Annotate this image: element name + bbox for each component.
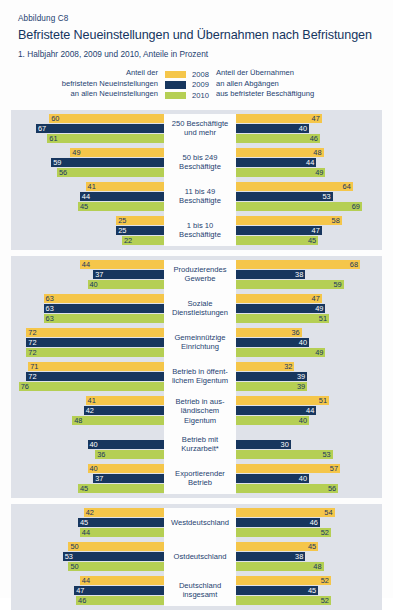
bar-2009: 40 [236, 474, 309, 483]
bar-row: 72 [11, 372, 164, 382]
bar-value: 42 [86, 508, 94, 517]
group-label-line: Kurzarbeit* [164, 445, 236, 455]
bar-row: 49 [236, 304, 382, 314]
group-label: 250 Beschäftigteund mehr [164, 119, 236, 138]
bar-value: 48 [74, 416, 82, 425]
chart-legend: Anteil der befristeten Neueinstellungen … [0, 68, 393, 101]
bar-value: 45 [308, 236, 316, 245]
bar-2009: 45 [78, 518, 164, 527]
bar-value: 44 [306, 158, 314, 167]
bar-2009: 53 [236, 192, 333, 201]
bar-row: 40 [11, 440, 164, 450]
bar-2009: 53 [63, 552, 164, 561]
legend-entry-2008: 2008 [165, 69, 209, 80]
legend-entry-2009: 2009 [165, 80, 209, 91]
bar-2009: 59 [51, 158, 164, 167]
bar-2008: 48 [236, 148, 324, 157]
right-bars: 474951 [236, 294, 382, 324]
right-bars: 574056 [236, 464, 382, 494]
bar-value: 48 [313, 148, 321, 157]
bar-value: 45 [308, 586, 316, 595]
bar-row: 39 [236, 382, 382, 392]
bar-value: 52 [321, 596, 329, 605]
bar-2010: 50 [68, 562, 164, 571]
bar-row: 56 [11, 168, 164, 178]
bar-row: 49 [11, 148, 164, 158]
left-bars: 414445 [11, 182, 164, 212]
bar-value: 39 [297, 382, 305, 391]
bar-value: 72 [28, 338, 36, 347]
right-bars: 364049 [236, 328, 382, 358]
bar-row: 39 [236, 372, 382, 382]
bar-row: 63 [11, 294, 164, 304]
bar-value: 40 [299, 124, 307, 133]
bar-2008: 52 [236, 576, 331, 585]
bar-2010: 46 [76, 596, 164, 605]
bar-value: 47 [312, 114, 320, 123]
bar-value: 49 [315, 348, 323, 357]
bar-row: 30 [236, 440, 382, 450]
bar-value: 41 [88, 396, 96, 405]
bar-value: 22 [124, 236, 132, 245]
bar-value: 44 [82, 576, 90, 585]
bar-value: 61 [49, 134, 57, 143]
chart-panel: 424544Westdeutschland544652505350Ostdeut… [11, 504, 382, 610]
group-label-line: 1 bis 10 [164, 221, 236, 231]
group-label-line: und mehr [164, 129, 236, 139]
right-bars: 474046 [236, 114, 382, 144]
bar-2009: 40 [236, 124, 309, 133]
group-label: Betrieb mitKurzarbeit* [164, 435, 236, 454]
bar-value: 45 [80, 202, 88, 211]
group-label: Westdeutschland [164, 518, 236, 528]
bar-2008: 58 [236, 216, 342, 225]
bar-row: 47 [11, 586, 164, 596]
chart-group: 443740ProduzierendesGewerbe683859 [11, 260, 382, 290]
bar-2008: 51 [236, 396, 329, 405]
left-bars: 636363 [11, 294, 164, 324]
bar-value: 40 [299, 338, 307, 347]
figure-title: Befristete Neueinstellungen und Übernahm… [18, 28, 381, 42]
group-label-line: ländischem Eigentum [164, 406, 236, 425]
bar-row: 40 [236, 416, 382, 426]
bar-value: 44 [82, 528, 90, 537]
bar-value: 37 [95, 270, 103, 279]
bar-row: 42 [11, 508, 164, 518]
bar-value: 41 [88, 182, 96, 191]
bar-value: 72 [28, 372, 36, 381]
bar-value: 49 [315, 168, 323, 177]
bar-2010: 61 [47, 134, 164, 143]
bar-value: 49 [315, 304, 323, 313]
bar-value: 52 [321, 576, 329, 585]
bar-value: 51 [319, 396, 327, 405]
bar-row: 61 [11, 134, 164, 144]
bar-2008: 45 [236, 542, 318, 551]
legend-left-line-2: befristeten Neueinstellungen [26, 79, 158, 90]
bar-value: 40 [299, 416, 307, 425]
group-label-line: Deutschland [164, 581, 236, 591]
bar-row: 51 [236, 396, 382, 406]
left-bars: 444746 [11, 576, 164, 606]
chart-group: 2525221 bis 10Beschäftigte584745 [11, 216, 382, 246]
bar-2010: 48 [236, 562, 324, 571]
left-bars: 252522 [11, 216, 164, 246]
bar-row: 46 [236, 518, 382, 528]
group-label: Ostdeutschland [164, 552, 236, 562]
bar-value: 32 [284, 362, 292, 371]
bar-row: 45 [11, 484, 164, 494]
panel-inner: 443740ProduzierendesGewerbe683859636363S… [11, 260, 382, 494]
bar-value: 67 [38, 124, 46, 133]
right-bars: 524552 [236, 576, 382, 606]
bar-value: 52 [321, 528, 329, 537]
group-label: 11 bis 49Beschäftigte [164, 187, 236, 206]
bar-value: 51 [319, 314, 327, 323]
bar-row: 49 [236, 348, 382, 358]
right-bars: 683859 [236, 260, 382, 290]
bar-row: 53 [236, 450, 382, 460]
chart-group: 414248Betrieb in aus-ländischem Eigentum… [11, 396, 382, 426]
bar-row: 47 [236, 226, 382, 236]
bar-row: 63 [11, 304, 164, 314]
bar-value: 38 [295, 552, 303, 561]
bar-row: 44 [236, 158, 382, 168]
bar-row [11, 430, 164, 440]
bar-2009: 38 [236, 552, 305, 561]
